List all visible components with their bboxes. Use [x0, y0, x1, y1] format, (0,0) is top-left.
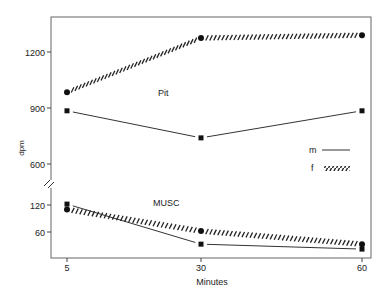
square-marker-icon [65, 202, 70, 207]
annotation-pit: Pit [158, 88, 169, 98]
y-tick-label: 900 [30, 104, 45, 114]
circle-marker-icon [359, 32, 365, 38]
x-axis-label: Minutes [196, 277, 228, 287]
legend: m f [309, 145, 350, 173]
y-axis-label: dpm [17, 140, 26, 156]
series-pit-f [64, 32, 365, 95]
circle-marker-icon [198, 35, 204, 41]
y-tick-label: 60 [35, 228, 45, 238]
y-tick-label: 600 [30, 160, 45, 170]
plot-frame [51, 17, 371, 258]
legend-swatch-f [324, 166, 350, 171]
legend-label-m: m [309, 145, 317, 155]
x-axis-ticks: 53060 [64, 258, 367, 273]
circle-marker-icon [64, 89, 70, 95]
line-chart: 600900120060120 53060 dpm Minutes Pit MU… [0, 0, 388, 299]
y-tick-label: 1200 [25, 48, 45, 58]
y-axis-ticks: 600900120060120 [25, 48, 51, 238]
axis-break-icon [44, 180, 58, 188]
series-layer [64, 32, 365, 251]
x-tick-label: 30 [196, 263, 206, 273]
series-musc-f [64, 207, 365, 248]
square-marker-icon [65, 108, 70, 113]
square-marker-icon [360, 247, 365, 252]
x-tick-label: 5 [64, 263, 69, 273]
y-tick-label: 120 [30, 201, 45, 211]
square-marker-icon [360, 108, 365, 113]
x-tick-label: 60 [357, 263, 367, 273]
series-pit-m [65, 108, 365, 140]
square-marker-icon [199, 242, 204, 247]
legend-label-f: f [311, 163, 314, 173]
circle-marker-icon [198, 228, 204, 234]
circle-marker-icon [64, 207, 70, 213]
chart-canvas: 600900120060120 53060 dpm Minutes Pit MU… [0, 0, 388, 299]
circle-marker-icon [359, 241, 365, 247]
square-marker-icon [199, 135, 204, 140]
annotation-musc: MUSC [153, 198, 180, 208]
series-musc-m [65, 202, 365, 252]
